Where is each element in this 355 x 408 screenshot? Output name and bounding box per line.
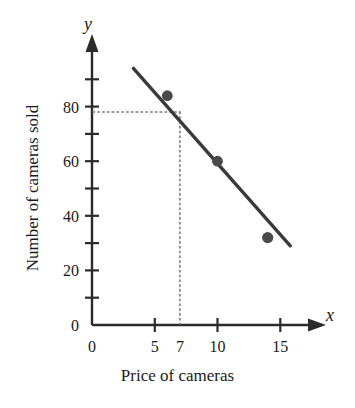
data-point (212, 156, 223, 167)
x-tick-label-0: 0 (88, 338, 96, 355)
y-tick-label-60: 60 (63, 153, 79, 170)
trend-line (133, 68, 290, 245)
y-tick-label-80: 80 (63, 99, 79, 116)
plot-canvas: 80 60 40 20 0 0 5 7 10 15 (0, 0, 355, 408)
scatter-plot-figure: 80 60 40 20 0 0 5 7 10 15 y x Number of … (0, 0, 355, 408)
y-tick-label-40: 40 (63, 208, 79, 225)
y-axis-title: Number of cameras sold (23, 73, 43, 303)
y-axis-arrow-icon (86, 34, 99, 52)
y-axis-variable-label: y (84, 14, 92, 35)
x-axis-title: Price of cameras (0, 366, 355, 386)
y-tick-label-20: 20 (63, 262, 79, 279)
data-point (162, 90, 173, 101)
y-tick-label-0: 0 (71, 317, 79, 334)
x-tick-label-5: 5 (151, 338, 159, 355)
x-axis-arrow-icon (308, 319, 326, 332)
data-point (262, 232, 273, 243)
data-points (162, 90, 273, 243)
x-tick-label-7: 7 (176, 338, 184, 355)
x-tick-label-15: 15 (272, 338, 288, 355)
x-axis-variable-label: x (326, 305, 334, 326)
x-tick-label-10: 10 (210, 338, 226, 355)
